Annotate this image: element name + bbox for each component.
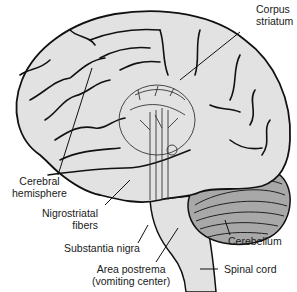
label-cerebral-hemisphere: Cerebral hemisphere	[12, 175, 67, 199]
label-corpus-striatum: Corpus striatum	[256, 3, 293, 27]
label-nigrostriatal-fibers: Nigrostriatal fibers	[42, 207, 98, 231]
leader-substantia-nigra	[138, 225, 148, 243]
label-spinal-cord: Spinal cord	[224, 263, 277, 275]
label-area-postrema: Area postrema (vomiting center)	[92, 263, 170, 287]
label-cerebellum: Cerebellum	[228, 235, 282, 247]
brain-illustration	[0, 0, 297, 292]
label-substantia-nigra: Substantia nigra	[64, 242, 140, 254]
brain-diagram: Corpus striatum Cerebral hemisphere Nigr…	[0, 0, 297, 292]
